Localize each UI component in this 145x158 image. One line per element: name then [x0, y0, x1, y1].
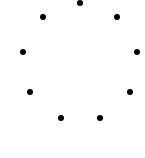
spinner-dot-icon — [97, 115, 103, 121]
spinner-dot-icon — [40, 14, 46, 20]
loading-spinner — [0, 0, 145, 158]
spinner-dot-icon — [27, 89, 33, 95]
spinner-dot-icon — [134, 49, 140, 55]
spinner-dot-icon — [58, 115, 64, 121]
spinner-dot-icon — [127, 89, 133, 95]
spinner-dot-icon — [77, 0, 83, 6]
spinner-dot-icon — [20, 49, 26, 55]
spinner-dot-icon — [114, 14, 120, 20]
